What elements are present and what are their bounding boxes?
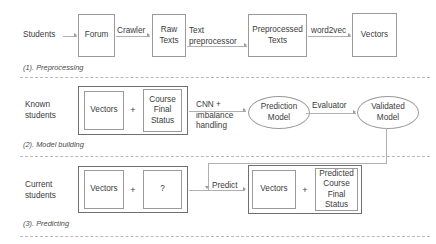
node-vectors-current: Vectors [84, 170, 124, 209]
arrowhead-validated-to-predict [205, 186, 209, 189]
arrowhead-predict [243, 187, 246, 191]
node-validated-model: Validated Model [357, 96, 419, 129]
arrowhead-rawtexts-preprocessed [244, 43, 247, 47]
operator-plus-known: + [127, 105, 139, 115]
node-vectors-preprocessing: Vectors [352, 13, 397, 57]
edge-label-text-preprocessor: Text preprocessor [189, 26, 237, 47]
section-caption-preprocessing: (1). Preprocessing [23, 63, 83, 72]
section-divider-2 [20, 156, 430, 157]
node-preprocessed-texts: Preprocessed Texts [248, 14, 307, 57]
pipeline-diagram: Students Forum Crawler Raw Texts Text pr… [0, 0, 436, 244]
edge-label-cnn-imbalance: CNN + imbalance handling [196, 100, 233, 132]
arrowhead-forum-rawtexts [147, 33, 150, 37]
edge-label-evaluator: Evaluator [312, 101, 347, 112]
edge-label-crawler: Crawler [117, 26, 145, 37]
node-prediction-model: Prediction Model [248, 96, 310, 129]
connector-rawtexts-preprocessed [187, 46, 247, 47]
operator-plus-predicted: + [299, 185, 311, 195]
label-known-students: Known students [25, 100, 56, 121]
connector-forum-rawtexts [116, 36, 150, 37]
node-predicted-course-final-status: Predicted Course Final Status [315, 168, 358, 211]
node-vectors-known: Vectors [84, 91, 124, 130]
connector-preprocessed-vectors [308, 36, 351, 37]
operator-plus-current: + [127, 185, 139, 195]
node-vectors-predicted: Vectors [252, 170, 296, 209]
connector-validated-down [386, 128, 387, 163]
section-caption-model-building: (2). Model building [23, 140, 84, 149]
section-divider-1 [20, 77, 430, 78]
node-forum: Forum [78, 14, 115, 57]
label-students: Students [23, 30, 55, 41]
label-current-students: Current students [25, 180, 56, 201]
section-divider-3 [20, 236, 430, 237]
connector-prediction-validated [306, 113, 356, 114]
arrowhead-preprocessed-vectors [348, 33, 351, 37]
connector-predict [189, 190, 245, 191]
node-course-final-status: Course Final Status [143, 89, 182, 132]
arrowhead-group-prediction [243, 108, 246, 112]
arrowhead-students-forum [74, 33, 77, 37]
arrowhead-prediction-validated [353, 110, 356, 114]
connector-group-prediction [189, 111, 246, 112]
section-caption-predicting: (3). Predicting [23, 219, 69, 228]
connector-validated-left [208, 163, 387, 164]
node-raw-texts: Raw Texts [152, 14, 186, 57]
edge-label-word2vec: word2vec [311, 26, 346, 37]
node-unknown-status: ? [143, 170, 182, 209]
